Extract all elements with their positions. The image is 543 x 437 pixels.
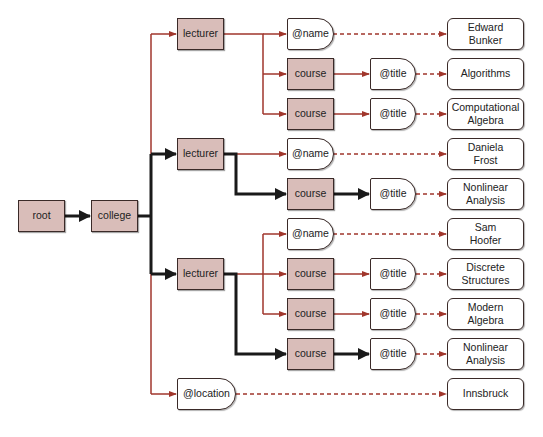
- attr-title: @title: [370, 258, 416, 290]
- node-college: college: [91, 200, 138, 232]
- node-lecturer-2: lecturer: [177, 138, 224, 170]
- node-course: course: [287, 298, 334, 330]
- node-course: course: [287, 178, 334, 210]
- value-location: Innsbruck: [447, 378, 524, 410]
- value-name-2: Daniela Frost: [447, 138, 524, 170]
- value-title: Algorithms: [447, 58, 524, 90]
- attr-name-3: @name: [287, 218, 334, 250]
- value-name-1: Edward Bunker: [447, 18, 524, 50]
- value-title: Computational Algebra: [447, 98, 524, 130]
- attr-name-1: @name: [287, 18, 334, 50]
- value-title: Discrete Structures: [447, 258, 524, 290]
- node-course: course: [287, 258, 334, 290]
- value-title: Modern Algebra: [447, 298, 524, 330]
- attr-title: @title: [370, 58, 416, 90]
- attr-title: @title: [370, 338, 416, 370]
- attr-title: @title: [370, 178, 416, 210]
- value-title: Nonlinear Analysis: [447, 178, 524, 210]
- node-lecturer-1: lecturer: [177, 18, 224, 50]
- value-name-3: Sam Hoofer: [447, 218, 524, 250]
- attr-name-2: @name: [287, 138, 334, 170]
- node-course: course: [287, 338, 334, 370]
- node-root: root: [18, 200, 65, 232]
- attr-title: @title: [370, 98, 416, 130]
- node-lecturer-3: lecturer: [177, 258, 224, 290]
- node-course: course: [287, 98, 334, 130]
- node-course: course: [287, 58, 334, 90]
- attr-title: @title: [370, 298, 416, 330]
- attr-location: @location: [177, 378, 236, 410]
- value-title: Nonlinear Analysis: [447, 338, 524, 370]
